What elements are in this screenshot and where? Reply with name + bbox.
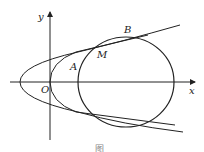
y-axis-label: y xyxy=(37,11,44,22)
figure-caption: 图 xyxy=(95,144,104,152)
point-b-label: B xyxy=(123,24,131,35)
math-figure: y x O A B M 图 xyxy=(0,0,204,152)
point-a-label: A xyxy=(69,61,77,72)
origin-label: O xyxy=(41,84,49,95)
point-m-label: M xyxy=(96,49,108,60)
tangent-top xyxy=(76,35,148,52)
x-axis-label: x xyxy=(189,85,195,96)
